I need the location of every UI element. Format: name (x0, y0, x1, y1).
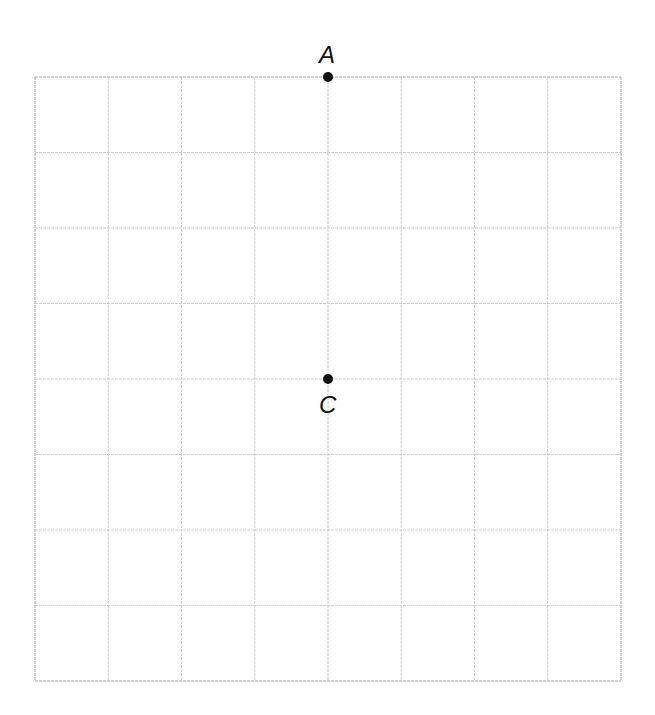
point-label-a: A (319, 43, 335, 67)
point-label-c: C (319, 393, 336, 417)
point-c (323, 374, 333, 384)
grid-diagram (0, 0, 655, 715)
point-a (323, 72, 333, 82)
